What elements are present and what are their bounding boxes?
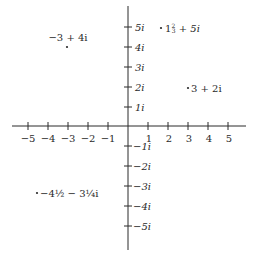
point-3-plus-2i: 3 + 2i <box>187 83 222 94</box>
tick-label-re-neg4: −4 <box>41 133 56 144</box>
tick-label-im-2: 2i <box>134 82 145 93</box>
tick-label-re-5: 5 <box>226 133 232 144</box>
complex-plane-diagram: −5 −4 −3 −2 −1 1 2 3 4 5 5i 4i 3i 2i 1i … <box>0 0 257 255</box>
point-dot <box>66 46 68 48</box>
point-label: 123 + 5i <box>165 22 200 34</box>
point-label: −3 + 4i <box>48 32 87 43</box>
point-dot <box>187 87 189 89</box>
tick-label-im-neg1: −1i <box>133 141 151 152</box>
point-neg3-plus-4i: −3 + 4i <box>48 32 87 48</box>
tick-label-re-neg2: −2 <box>81 133 96 144</box>
point-label: 3 + 2i <box>191 83 222 94</box>
real-axis-labels: −5 −4 −3 −2 −1 1 2 3 4 5 <box>21 133 233 144</box>
tick-label-im-5: 5i <box>135 22 145 33</box>
tick-label-re-2: 2 <box>166 133 172 144</box>
tick-label-im-4: 4i <box>134 42 145 53</box>
tick-label-im-neg2: −2i <box>133 161 151 172</box>
tick-label-im-neg4: −4i <box>133 201 151 212</box>
tick-label-re-4: 4 <box>206 133 212 144</box>
tick-label-im-neg5: −5i <box>133 221 151 232</box>
point-dot <box>160 27 162 29</box>
point-label: −4½ − 3¼i <box>40 188 98 199</box>
tick-label-re-neg5: −5 <box>21 133 36 144</box>
point-dot <box>36 192 38 194</box>
tick-label-im-1: 1i <box>135 102 145 113</box>
tick-label-re-neg1: −1 <box>101 133 116 144</box>
tick-label-im-3: 3i <box>135 62 145 73</box>
point-1-2thirds-plus-5i: 123 + 5i <box>160 22 200 34</box>
tick-label-re-3: 3 <box>186 133 192 144</box>
tick-label-im-neg3: −3i <box>133 181 151 192</box>
tick-label-re-neg3: −3 <box>61 133 76 144</box>
point-neg4-half-minus-3-quarter-i: −4½ − 3¼i <box>36 188 99 199</box>
